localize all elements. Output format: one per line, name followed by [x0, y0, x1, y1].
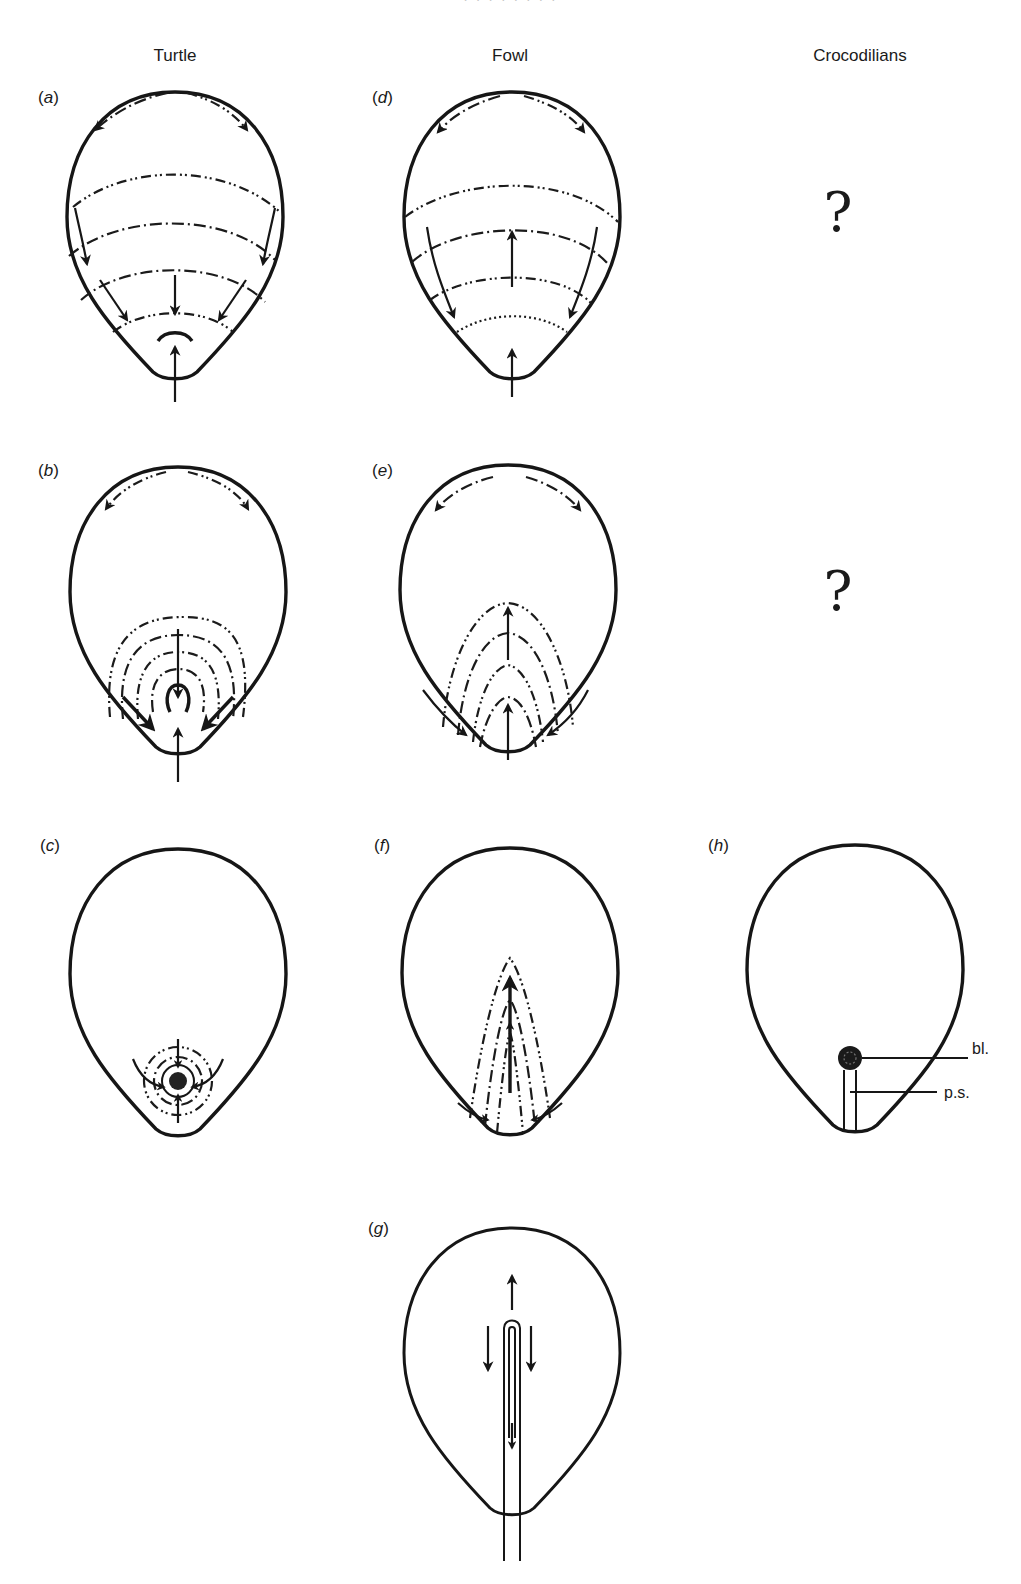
arrow-anterior-left [106, 472, 166, 509]
panel-g-fowl-streak [404, 1228, 620, 1561]
arrow-converge-left [123, 697, 153, 729]
arrow-converge-right [203, 697, 233, 729]
blastopore-plug [169, 1072, 187, 1090]
panel-h-crocodilian [747, 845, 968, 1132]
panel-d-fowl-early [404, 92, 620, 397]
primitive-groove [509, 1327, 515, 1438]
egg-outline [70, 849, 286, 1136]
contour-2 [412, 230, 608, 264]
egg-outline [404, 1228, 620, 1515]
blastopore [838, 1046, 862, 1070]
panel-a-turtle-early [67, 92, 283, 402]
blastopore-crescent [158, 333, 192, 341]
egg-outline [70, 467, 286, 754]
egg-outline [67, 92, 283, 379]
panel-f-fowl-late [402, 848, 618, 1135]
arrow-converge-right [219, 280, 246, 320]
contour-1 [405, 186, 618, 222]
contour-4 [457, 316, 567, 332]
arrow-lateral-left [75, 208, 87, 264]
arrow-converge-right [548, 690, 588, 735]
panel-e-fowl-mid [400, 465, 616, 760]
panel-c-turtle-late [70, 849, 286, 1136]
arrow-anterior-right [188, 472, 248, 509]
contour-2 [69, 223, 275, 260]
contour-1 [73, 175, 280, 212]
contour-3 [81, 270, 265, 302]
arrow-anterior-right [526, 477, 580, 510]
arrow-anterior-left [436, 477, 493, 510]
panel-b-turtle-mid [70, 467, 286, 782]
contour-4 [113, 313, 233, 332]
gastrulation-figure: · · · · · · · · Turtle Fowl Crocodilians… [0, 0, 1021, 1584]
diagram-artwork [0, 0, 1021, 1584]
